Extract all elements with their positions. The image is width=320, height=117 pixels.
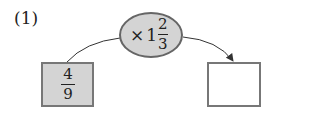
start-numerator: 4 [63,67,73,82]
operator-numerator: 2 [158,17,168,32]
operator-denominator: 3 [158,37,168,52]
start-fraction: 4 9 [61,67,75,102]
result-answer-blank[interactable] [210,65,258,104]
multiply-symbol: × [130,25,144,45]
operator-whole: 1 [146,25,157,45]
connector-arrow-right [183,37,233,61]
operator-fraction: 2 3 [158,17,168,52]
operator-expression: × 1 2 3 [130,17,168,52]
connector-curve-left [67,38,120,62]
start-denominator: 9 [63,87,73,102]
